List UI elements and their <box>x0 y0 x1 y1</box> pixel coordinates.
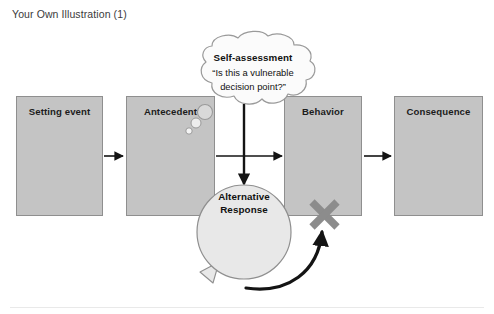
box-antecedent: Antecedent <box>126 96 215 216</box>
thought-bubble-quote-line2: decision point?” <box>190 80 316 94</box>
box-antecedent-label: Antecedent <box>127 106 214 117</box>
curved-arrow-to-cross <box>246 232 322 289</box>
page-title: Your Own Illustration (1) <box>12 8 127 20</box>
diagram-canvas: Your Own Illustration (1) Setting event … <box>0 0 494 314</box>
box-setting-event: Setting event <box>16 96 103 216</box>
box-consequence-label: Consequence <box>395 106 482 117</box>
box-setting-event-label: Setting event <box>17 106 102 117</box>
thought-bubble-quote-line1: “Is this a vulnerable <box>190 66 316 80</box>
thought-bubble <box>201 31 315 104</box>
box-behavior: Behavior <box>284 96 362 216</box>
box-consequence: Consequence <box>394 96 483 216</box>
thought-bubble-quote: “Is this a vulnerable decision point?” <box>190 66 316 93</box>
thought-bubble-title: Self-assessment <box>192 52 314 63</box>
box-behavior-label: Behavior <box>285 106 361 117</box>
bottom-divider <box>10 307 484 308</box>
